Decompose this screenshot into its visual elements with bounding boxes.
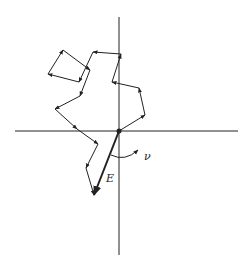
angle-arc-nu (111, 150, 138, 158)
random-walk-path (48, 50, 145, 195)
walk-step-arrow (86, 168, 94, 195)
walk-step-arrow (55, 96, 80, 109)
walk-step-arrow (112, 54, 121, 82)
walk-step-arrow (139, 88, 145, 115)
walk-step-arrow (48, 50, 63, 74)
axes (15, 17, 238, 255)
origin-point (117, 129, 122, 134)
phasor-diagram (0, 0, 248, 266)
walk-step-arrow (63, 50, 90, 70)
walk-step-arrow (86, 144, 98, 168)
walk-step-arrow (119, 115, 145, 131)
walk-step-arrow (93, 52, 121, 54)
walk-step-arrow (55, 109, 77, 129)
resultant-label: E (106, 172, 114, 185)
walk-step-arrow (112, 82, 139, 88)
angle-label: ν (144, 150, 151, 163)
walk-step-arrow (80, 70, 90, 96)
walk-step-arrow (48, 74, 79, 82)
resultant-vector-e (94, 131, 119, 195)
